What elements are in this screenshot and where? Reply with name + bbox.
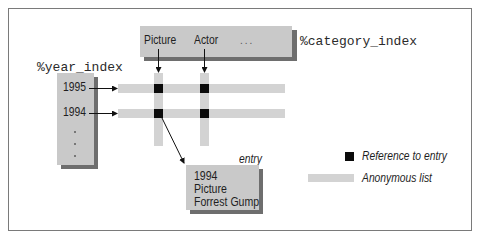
legend: Reference to entry Anonymous list [306,148,476,188]
arrow-reference-to-entry [161,116,184,163]
entry-box: 1994 Picture Forrest Gump [186,165,259,210]
entry-label: entry [239,152,262,166]
legend-reference-swatch [345,152,354,161]
legend-reference-label: Reference to entry [362,149,447,163]
entry-title: Forrest Gump [194,196,259,209]
legend-anon-list-swatch [308,174,354,182]
legend-anon-list-label: Anonymous list [362,171,432,185]
